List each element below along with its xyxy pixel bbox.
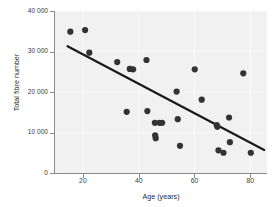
x-tick-label: 20 (68, 178, 98, 185)
x-tick-label: 40 (124, 178, 154, 185)
y-tick-mark (50, 11, 55, 12)
y-tick-mark (50, 92, 55, 93)
y-axis-title: Total fibre number (12, 13, 21, 153)
data-point (226, 114, 232, 120)
data-point (82, 27, 88, 33)
chart-figure: 010 00020 00030 00040 000 20406080 Total… (0, 0, 278, 207)
data-point (174, 88, 180, 94)
plot-area (55, 11, 267, 173)
x-tick-label: 80 (235, 178, 265, 185)
data-point (214, 124, 220, 130)
data-point (67, 29, 73, 35)
x-axis-title: Age (years) (55, 192, 267, 201)
data-point (248, 150, 254, 156)
x-tick-label: 60 (179, 178, 209, 185)
y-tick-label: 10 000 (2, 129, 48, 136)
data-point (199, 97, 205, 103)
trend-line (68, 46, 265, 150)
data-point (227, 139, 233, 145)
data-point (130, 66, 136, 72)
y-tick-label: 30 000 (2, 48, 48, 55)
data-point (192, 66, 198, 72)
y-tick-mark (50, 133, 55, 134)
data-point (177, 143, 183, 149)
data-point (114, 59, 120, 65)
data-point (159, 120, 165, 126)
data-point (175, 116, 181, 122)
y-tick-mark (50, 173, 55, 174)
y-tick-label: 20 000 (2, 89, 48, 96)
y-tick-mark (50, 52, 55, 53)
data-point (144, 108, 150, 114)
data-point (124, 109, 130, 115)
data-point (240, 70, 246, 76)
data-point (153, 135, 159, 141)
data-point (220, 150, 226, 156)
y-tick-label: 40 000 (2, 8, 48, 15)
x-axis-line (54, 173, 267, 174)
data-point (86, 50, 92, 56)
scatter-plot-svg (55, 11, 267, 173)
data-point (143, 57, 149, 63)
y-tick-label: 0 (2, 170, 48, 177)
